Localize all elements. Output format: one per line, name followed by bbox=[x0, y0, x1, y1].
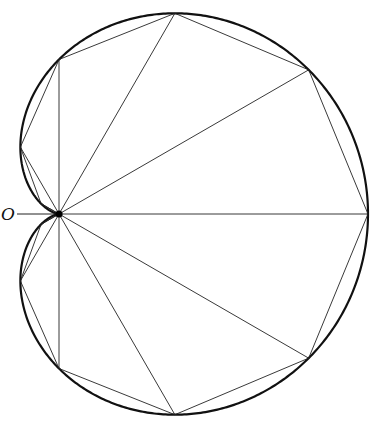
origin-label: O bbox=[1, 204, 15, 224]
cardioid-diagram: O bbox=[0, 0, 374, 438]
radial-lines bbox=[20, 13, 368, 414]
origin-point bbox=[55, 210, 62, 217]
radial-line bbox=[59, 214, 309, 358]
radial-line bbox=[59, 70, 309, 214]
